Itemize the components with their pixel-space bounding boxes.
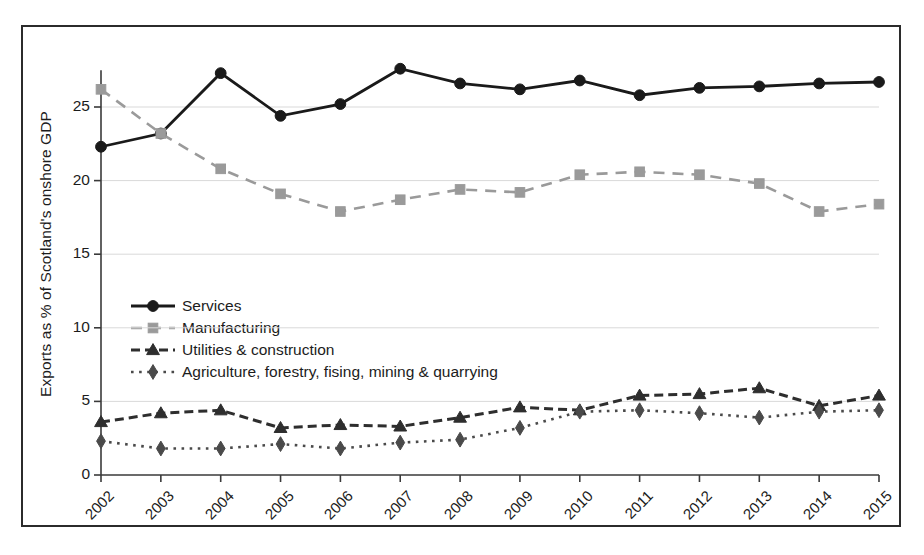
data-point-diamond-marker xyxy=(875,403,884,418)
data-point-diamond-marker xyxy=(635,403,644,418)
data-point-diamond-marker xyxy=(575,404,584,419)
data-point-circle-marker xyxy=(455,78,466,89)
data-point-circle-marker xyxy=(574,75,585,86)
data-point-diamond-marker xyxy=(516,420,525,435)
data-point-square-marker xyxy=(455,185,465,195)
data-point-circle-marker xyxy=(814,78,825,89)
data-point-circle-marker xyxy=(96,141,107,152)
data-point-circle-marker xyxy=(215,68,226,79)
data-point-square-marker xyxy=(635,167,645,177)
data-point-circle-marker xyxy=(874,77,885,88)
data-point-square-marker xyxy=(874,199,884,209)
data-point-square-marker xyxy=(755,179,765,189)
data-point-square-marker xyxy=(575,170,585,180)
data-point-square-marker xyxy=(156,129,166,139)
data-point-triangle-marker xyxy=(154,407,167,418)
data-point-diamond-marker xyxy=(276,437,285,452)
data-point-circle-marker xyxy=(515,84,526,95)
data-point-triangle-marker xyxy=(873,389,886,400)
data-point-circle-marker xyxy=(634,90,645,101)
data-point-square-marker xyxy=(336,207,346,217)
data-point-square-marker xyxy=(96,85,106,95)
data-point-square-marker xyxy=(695,170,705,180)
data-point-square-marker xyxy=(276,189,286,199)
data-point-circle-marker xyxy=(275,110,286,121)
data-point-diamond-marker xyxy=(695,406,704,421)
data-point-diamond-marker xyxy=(336,441,345,456)
data-point-circle-marker xyxy=(335,99,346,110)
data-point-circle-marker xyxy=(754,81,765,92)
data-point-square-marker xyxy=(216,164,226,174)
data-point-diamond-marker xyxy=(396,435,405,450)
data-point-circle-marker xyxy=(694,82,705,93)
series-line xyxy=(101,89,879,211)
plot-canvas xyxy=(0,0,924,555)
chart-figure: Exports as % of Scotland's onshore GDP 0… xyxy=(0,0,924,555)
data-point-diamond-marker xyxy=(216,441,225,456)
data-point-circle-marker xyxy=(395,63,406,74)
data-point-diamond-marker xyxy=(156,441,165,456)
data-point-diamond-marker xyxy=(456,432,465,447)
series-line xyxy=(101,69,879,147)
data-point-square-marker xyxy=(814,207,824,217)
data-point-square-marker xyxy=(395,195,405,205)
data-point-diamond-marker xyxy=(97,434,106,449)
data-point-square-marker xyxy=(515,188,525,198)
data-point-diamond-marker xyxy=(755,410,764,425)
